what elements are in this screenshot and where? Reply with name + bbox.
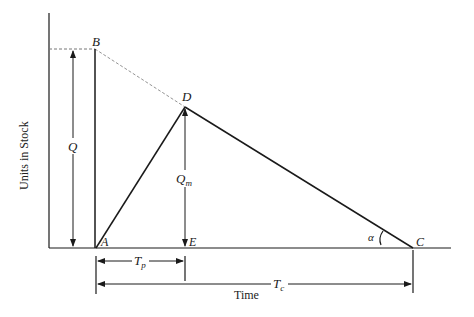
tc-label: Tc	[273, 276, 284, 293]
dc-line	[185, 107, 413, 248]
point-label-c: C	[416, 235, 425, 249]
point-label-a: A	[100, 235, 109, 249]
tp-label: Tp	[134, 253, 146, 270]
point-label-b: B	[92, 34, 100, 49]
inventory-diagram: B D A E C Q Qm Tp Tc α Time Units in Sto…	[0, 0, 474, 317]
qm-label: Qm	[176, 171, 192, 188]
point-label-e: E	[188, 235, 197, 249]
alpha-angle-arc	[380, 231, 383, 245]
bd-dashed-line	[95, 49, 185, 107]
y-axis-label: Units in Stock	[17, 121, 31, 190]
x-axis-label: Time	[234, 288, 259, 302]
ad-line	[96, 107, 185, 248]
point-label-d: D	[181, 89, 192, 104]
alpha-label: α	[368, 231, 374, 243]
q-label: Q	[68, 139, 78, 154]
